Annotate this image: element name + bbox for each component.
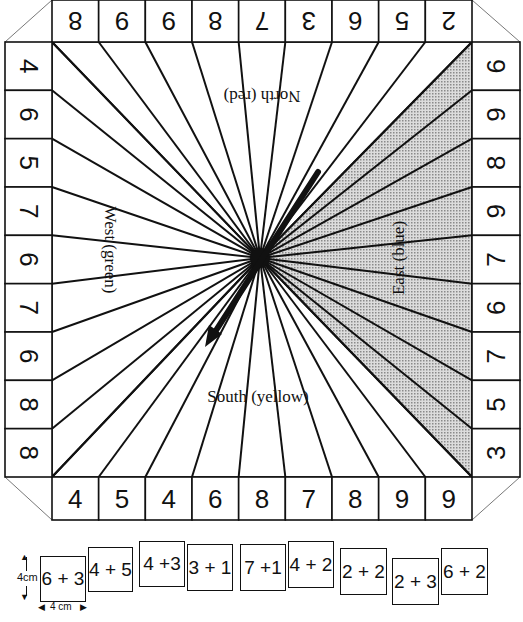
addition-card[interactable]: 3 + 1 <box>187 544 233 591</box>
cell-number: 8 <box>14 446 44 460</box>
left-cell: 4 <box>5 42 52 90</box>
right-cell: 9 <box>472 90 520 138</box>
addition-card[interactable]: 2 + 2 <box>340 548 387 595</box>
left-cell: 8 <box>5 429 52 477</box>
cell-number: 4 <box>68 484 82 514</box>
up-arrow-icon: ▲ <box>20 552 29 562</box>
east-region-label: East (blue) <box>389 221 408 295</box>
cell-number: 6 <box>14 107 44 121</box>
left-cell: 6 <box>5 235 52 283</box>
top-cell: 2 <box>425 0 472 42</box>
addition-card[interactable]: 7 +1 <box>240 544 286 591</box>
cell-number: 9 <box>115 6 129 36</box>
addition-card[interactable]: 4 + 5 <box>88 547 133 592</box>
right-cell: 5 <box>472 380 520 428</box>
west-region-label: West (green) <box>101 207 120 294</box>
cell-number: 6 <box>481 59 511 73</box>
left-cell: 6 <box>5 332 52 380</box>
cell-number: 8 <box>481 156 511 170</box>
top-cell: 7 <box>239 0 286 42</box>
east-region-shading <box>260 42 472 477</box>
cell-number: 5 <box>115 484 129 514</box>
cell-number: 8 <box>14 397 44 411</box>
top-cell: 9 <box>99 0 146 42</box>
cell-number: 7 <box>255 6 269 36</box>
cell-number: 8 <box>348 484 362 514</box>
cell-number: 4 <box>14 59 44 73</box>
addition-card[interactable]: 4 + 2 <box>288 541 334 588</box>
cell-number: 8 <box>255 484 269 514</box>
cell-number: 3 <box>481 446 511 460</box>
down-arrow-icon: ▼ <box>20 592 29 602</box>
bottom-cell: 9 <box>379 477 426 520</box>
cell-number: 5 <box>481 397 511 411</box>
addition-card[interactable]: 6 + 2 <box>441 548 488 595</box>
bottom-cell: 6 <box>192 477 239 520</box>
top-cell: 8 <box>52 0 99 42</box>
top-cell: 5 <box>379 0 426 42</box>
left-cell: 7 <box>5 284 52 332</box>
right-arrow-icon: ▶ <box>80 602 87 612</box>
right-cell: 7 <box>472 235 520 283</box>
top-cell: 8 <box>192 0 239 42</box>
right-cell: 8 <box>472 139 520 187</box>
top-cell: 6 <box>332 0 379 42</box>
cell-number: 8 <box>208 6 222 36</box>
left-arrow-icon: ◀ <box>38 602 45 612</box>
cell-number: 5 <box>14 156 44 170</box>
south-region-label: South (yellow) <box>207 387 309 406</box>
left-cell: 5 <box>5 139 52 187</box>
bottom-cell: 7 <box>285 477 332 520</box>
addition-card[interactable]: 2 + 3 <box>392 558 439 605</box>
cell-number: 2 <box>441 6 455 36</box>
cell-number: 6 <box>481 301 511 315</box>
north-region-label: North (red) <box>224 87 301 106</box>
bottom-cell: 4 <box>145 477 192 520</box>
right-cell: 3 <box>472 429 520 477</box>
cell-number: 6 <box>348 6 362 36</box>
right-cell: 6 <box>472 42 520 90</box>
cell-number: 6 <box>208 484 222 514</box>
cell-number: 9 <box>441 484 455 514</box>
cell-number: 8 <box>68 6 82 36</box>
cell-number: 9 <box>481 107 511 121</box>
bottom-cell: 4 <box>52 477 99 520</box>
cell-number: 3 <box>301 6 315 36</box>
top-cell: 3 <box>285 0 332 42</box>
left-cell: 7 <box>5 187 52 235</box>
right-cell: 6 <box>472 284 520 332</box>
bottom-cell: 8 <box>239 477 286 520</box>
cell-number: 6 <box>14 349 44 363</box>
bottom-cell: 5 <box>99 477 146 520</box>
cell-number: 7 <box>14 301 44 315</box>
cell-number: 9 <box>395 484 409 514</box>
addition-card[interactable]: 4 +3 <box>139 541 185 587</box>
game-board: 844695699458867978673776686759852983 Nor… <box>0 0 523 530</box>
cell-number: 7 <box>301 484 315 514</box>
cell-number: 9 <box>481 204 511 218</box>
left-cell: 8 <box>5 380 52 428</box>
bottom-cell: 9 <box>425 477 472 520</box>
cell-number: 7 <box>481 252 511 266</box>
right-cell: 9 <box>472 187 520 235</box>
left-cell: 6 <box>5 90 52 138</box>
height-label: 4cm <box>17 571 38 583</box>
cell-number: 4 <box>161 484 175 514</box>
cell-number: 9 <box>161 6 175 36</box>
cell-number: 7 <box>481 349 511 363</box>
cell-number: 7 <box>14 204 44 218</box>
right-cell: 7 <box>472 332 520 380</box>
cell-number: 5 <box>395 6 409 36</box>
width-label: 4 cm <box>50 601 72 612</box>
bottom-cell: 8 <box>332 477 379 520</box>
cell-number: 6 <box>14 252 44 266</box>
addition-card[interactable]: 6 + 3 <box>40 556 86 602</box>
top-cell: 9 <box>145 0 192 42</box>
